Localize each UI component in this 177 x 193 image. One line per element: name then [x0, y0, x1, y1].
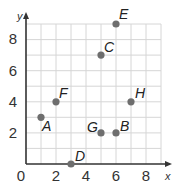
y-tick-labels: 8 6 4 2 — [9, 30, 17, 141]
label-A: A — [41, 118, 51, 134]
axes — [23, 12, 172, 167]
x-tick-0: 0 — [17, 167, 25, 184]
y-tick-8: 8 — [9, 30, 17, 47]
point-labels: A B C D E F G H — [41, 6, 146, 164]
x-tick-8: 8 — [142, 167, 150, 184]
label-E: E — [119, 6, 129, 22]
label-H: H — [135, 85, 146, 101]
x-tick-labels: 0 2 4 6 8 — [17, 167, 150, 184]
x-axis-label: x — [164, 170, 171, 182]
x-tick-2: 2 — [52, 167, 60, 184]
y-axis-arrow-icon — [23, 12, 29, 19]
point-H — [127, 98, 134, 105]
x-tick-6: 6 — [112, 167, 120, 184]
x-axis-arrow-icon — [165, 161, 172, 167]
label-C: C — [104, 39, 115, 55]
label-F: F — [59, 85, 69, 101]
point-G — [97, 129, 104, 136]
label-D: D — [75, 148, 85, 164]
coordinate-plane: y x 8 6 4 2 0 2 4 6 8 A B C D E F G H — [0, 0, 177, 193]
y-tick-4: 4 — [9, 93, 17, 110]
y-tick-6: 6 — [9, 62, 17, 79]
x-tick-4: 4 — [82, 167, 90, 184]
label-B: B — [120, 118, 129, 134]
y-axis-label: y — [16, 10, 24, 22]
point-B — [112, 129, 119, 136]
point-D — [67, 160, 74, 167]
y-tick-2: 2 — [9, 124, 17, 141]
label-G: G — [87, 119, 98, 135]
